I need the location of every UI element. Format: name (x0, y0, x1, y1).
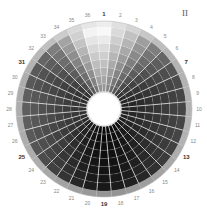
segment-label: 21 (69, 195, 75, 201)
segment-label: 23 (40, 179, 46, 185)
segment-label: 28 (6, 106, 12, 112)
segment-label: 26 (12, 138, 18, 144)
segment-label: 8 (192, 74, 195, 80)
segment-label: 33 (40, 33, 46, 39)
grayscale-wheel-chart: 1234567891011121314151617181920212223242… (0, 0, 207, 217)
segment-label: 34 (54, 24, 60, 30)
segment-label: 19 (101, 201, 108, 207)
segment-label: 6 (175, 45, 178, 51)
segment-label: 18 (118, 200, 124, 206)
segment-label: 17 (134, 195, 140, 201)
segment-label: 12 (190, 138, 196, 144)
segment-label: 4 (150, 24, 153, 30)
segment-label: 36 (85, 12, 91, 18)
segment-label: 10 (196, 106, 202, 112)
segment-label: 7 (185, 59, 189, 65)
center-hole (87, 92, 121, 126)
segment-label: 25 (18, 154, 25, 160)
segment-label: 2 (119, 12, 122, 18)
segment-label: 1 (102, 11, 106, 17)
segment-label: 14 (174, 167, 180, 173)
segment-label: 22 (54, 188, 60, 194)
segment-label: 35 (69, 17, 75, 23)
plate-label: II (182, 8, 188, 18)
segment-label: 31 (18, 59, 25, 65)
segment-label: 5 (164, 33, 167, 39)
segment-label: 9 (196, 90, 199, 96)
segment-label: 32 (28, 45, 34, 51)
segment-label: 29 (8, 90, 14, 96)
segment-label: 20 (85, 200, 91, 206)
segment-label: 3 (135, 17, 138, 23)
segment-label: 11 (195, 122, 200, 128)
segment-label: 15 (162, 179, 168, 185)
segment-label: 13 (183, 154, 190, 160)
segment-label: 16 (149, 188, 155, 194)
segment-label: 24 (28, 167, 34, 173)
segment-label: 27 (8, 122, 14, 128)
segment-label: 30 (12, 74, 18, 80)
